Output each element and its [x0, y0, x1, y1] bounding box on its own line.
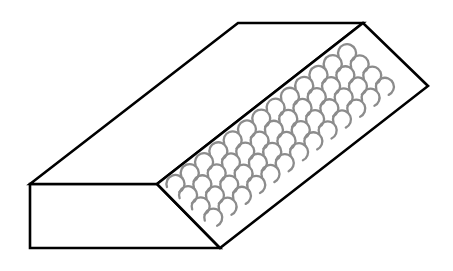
block-diagram [0, 0, 453, 271]
